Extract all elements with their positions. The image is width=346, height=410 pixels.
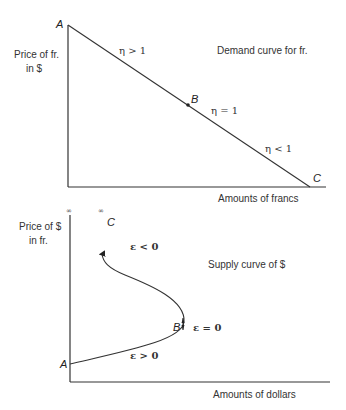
elasticity-diagram: A B C η > 1 η = 1 η < 1 Price of fr. in … (0, 0, 346, 410)
demand-point-c-label: C (313, 172, 321, 184)
demand-x-axis-label: Amounts of francs (218, 193, 299, 204)
demand-elasticity-lower: η < 1 (265, 143, 292, 154)
supply-point-a-label: A (59, 358, 67, 370)
supply-y-axis-infinity: ∞ (66, 207, 72, 215)
supply-curve (70, 254, 184, 364)
supply-point-b-label: B (173, 321, 180, 333)
demand-elasticity-middle: η = 1 (211, 105, 238, 116)
demand-point-b-marker (186, 103, 190, 107)
demand-title: Demand curve for fr. (217, 45, 308, 56)
supply-elasticity-upper: ε < 0 (130, 241, 158, 252)
demand-y-axis-label-line1: Price of fr. (14, 49, 59, 60)
demand-point-a-label: A (55, 18, 63, 30)
demand-elasticity-upper: η > 1 (119, 45, 146, 56)
supply-panel: ∞ ∞ A B C ε < 0 ε = 0 ε > 0 Price of $ i… (19, 207, 330, 400)
supply-title: Supply curve of $ (208, 259, 286, 270)
supply-x-axis-label: Amounts of dollars (213, 389, 296, 400)
demand-point-b-label: B (191, 93, 198, 105)
demand-panel: A B C η > 1 η = 1 η < 1 Price of fr. in … (14, 18, 326, 204)
supply-elasticity-lower: ε > 0 (130, 350, 158, 361)
supply-elasticity-middle: ε = 0 (193, 322, 221, 333)
supply-y-axis-label-line1: Price of $ (19, 221, 62, 232)
supply-y-axis-label-line2: in fr. (29, 235, 48, 246)
supply-point-c-label: C (107, 216, 115, 228)
supply-curve-infinity: ∞ (98, 207, 104, 215)
demand-y-axis-label-line2: in $ (26, 63, 43, 74)
